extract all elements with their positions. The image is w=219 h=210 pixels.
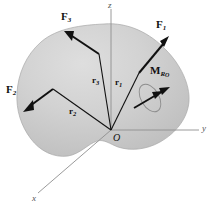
z-axis-label: z xyxy=(108,1,112,10)
force-1-subscript: 1 xyxy=(163,24,167,32)
r2-subscript: 2 xyxy=(73,110,76,117)
x-axis-label: x xyxy=(32,194,36,203)
force-3-subscript: 3 xyxy=(68,16,72,24)
force-3-symbol: F xyxy=(61,10,68,22)
y-axis-label: y xyxy=(202,124,206,133)
moment-subscript-o: O xyxy=(165,72,169,78)
force-1-label: F1 xyxy=(156,19,166,32)
moment-symbol: M xyxy=(150,64,160,76)
force-2-subscript: 2 xyxy=(13,89,17,97)
position-vector-1-label: r1 xyxy=(115,78,122,88)
r3-subscript: 3 xyxy=(96,79,99,86)
force-2-label: F2 xyxy=(6,84,16,97)
force-3-label: F3 xyxy=(61,11,71,24)
origin-label: O xyxy=(113,133,120,143)
r1-subscript: 1 xyxy=(119,81,122,88)
vector-mechanics-figure: z y x O F1 F2 F3 r1 r2 r3 MRO xyxy=(0,0,219,210)
position-vector-3-label: r3 xyxy=(92,76,99,86)
force-2-symbol: F xyxy=(6,83,13,95)
force-1-symbol: F xyxy=(156,18,163,30)
figure-canvas xyxy=(0,0,219,210)
position-vector-2-label: r2 xyxy=(69,107,76,117)
resultant-moment-label: MRO xyxy=(150,65,169,78)
